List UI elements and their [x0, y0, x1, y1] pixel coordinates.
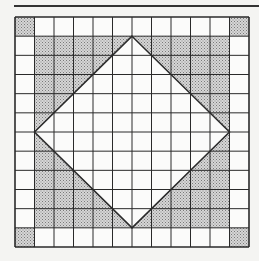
- shaded-corner-cell: [230, 228, 250, 247]
- shaded-corner-cell: [15, 17, 35, 36]
- grid-diagram: [0, 0, 259, 261]
- shaded-corner-cell: [15, 228, 35, 247]
- shaded-corner-cell: [230, 17, 250, 36]
